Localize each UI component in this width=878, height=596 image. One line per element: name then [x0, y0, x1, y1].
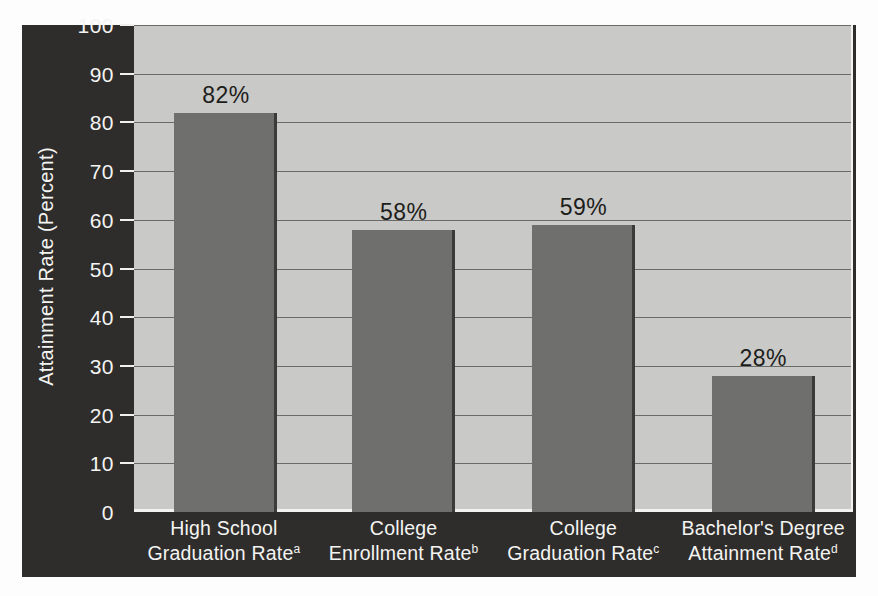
y-axis-tick	[120, 462, 134, 464]
category-line-2: Attainment Rated	[673, 541, 853, 566]
y-axis-tick-label: 80	[90, 112, 114, 133]
y-axis-tick	[120, 73, 134, 75]
y-axis-tick-label: 60	[90, 209, 114, 230]
y-axis-tick-label: 50	[90, 258, 114, 279]
category-footnote-marker: b	[472, 542, 479, 556]
gridline	[134, 25, 851, 26]
y-axis-tick	[120, 24, 134, 26]
y-axis-title: Attainment Rate (Percent)	[35, 56, 58, 476]
plot-inner: 82%58%59%28%	[134, 25, 851, 512]
bar	[174, 113, 277, 512]
y-axis-tick-label: 0	[102, 502, 114, 523]
y-axis-tick	[120, 121, 134, 123]
x-axis-category-label: Bachelor's DegreeAttainment Rated	[673, 516, 853, 566]
category-footnote-marker: c	[653, 542, 659, 556]
y-axis-tick	[120, 219, 134, 221]
bar-value-label: 82%	[174, 82, 277, 109]
y-axis: Attainment Rate (Percent) 01020304050607…	[22, 25, 134, 512]
category-line-1: College	[314, 516, 494, 541]
category-line-2: Enrollment Rateb	[314, 541, 494, 566]
y-axis-tick	[120, 170, 134, 172]
x-axis-category-label: CollegeGraduation Ratec	[494, 516, 674, 566]
x-axis-category-label: CollegeEnrollment Rateb	[314, 516, 494, 566]
x-axis-category-labels: High SchoolGraduation RateaCollegeEnroll…	[134, 516, 853, 574]
bar	[532, 225, 635, 512]
gridline	[134, 74, 851, 75]
y-axis-tick-label: 20	[90, 404, 114, 425]
category-line-2: Graduation Ratea	[134, 541, 314, 566]
category-line-1: College	[494, 516, 674, 541]
bar	[352, 230, 455, 512]
y-axis-tick-label: 10	[90, 453, 114, 474]
bar-value-label: 28%	[712, 345, 815, 372]
bar-value-label: 59%	[532, 194, 635, 221]
y-axis-tick	[120, 316, 134, 318]
y-axis-tick	[120, 268, 134, 270]
category-footnote-marker: a	[293, 542, 300, 556]
category-line-1: Bachelor's Degree	[673, 516, 853, 541]
y-axis-tick	[120, 365, 134, 367]
category-line-2: Graduation Ratec	[494, 541, 674, 566]
y-axis-tick-label: 40	[90, 307, 114, 328]
category-footnote-marker: d	[831, 542, 838, 556]
bar	[712, 376, 815, 512]
y-axis-tick	[120, 414, 134, 416]
x-axis-category-label: High SchoolGraduation Ratea	[134, 516, 314, 566]
plot-area: 82%58%59%28%	[134, 25, 853, 512]
y-axis-tick-label: 30	[90, 355, 114, 376]
y-axis-tick-label: 70	[90, 161, 114, 182]
bar-value-label: 58%	[352, 199, 455, 226]
y-axis-tick-label: 90	[90, 63, 114, 84]
y-axis-tick-label: 100	[77, 15, 114, 36]
category-line-1: High School	[134, 516, 314, 541]
chart-figure: 82%58%59%28% Attainment Rate (Percent) 0…	[0, 0, 878, 596]
